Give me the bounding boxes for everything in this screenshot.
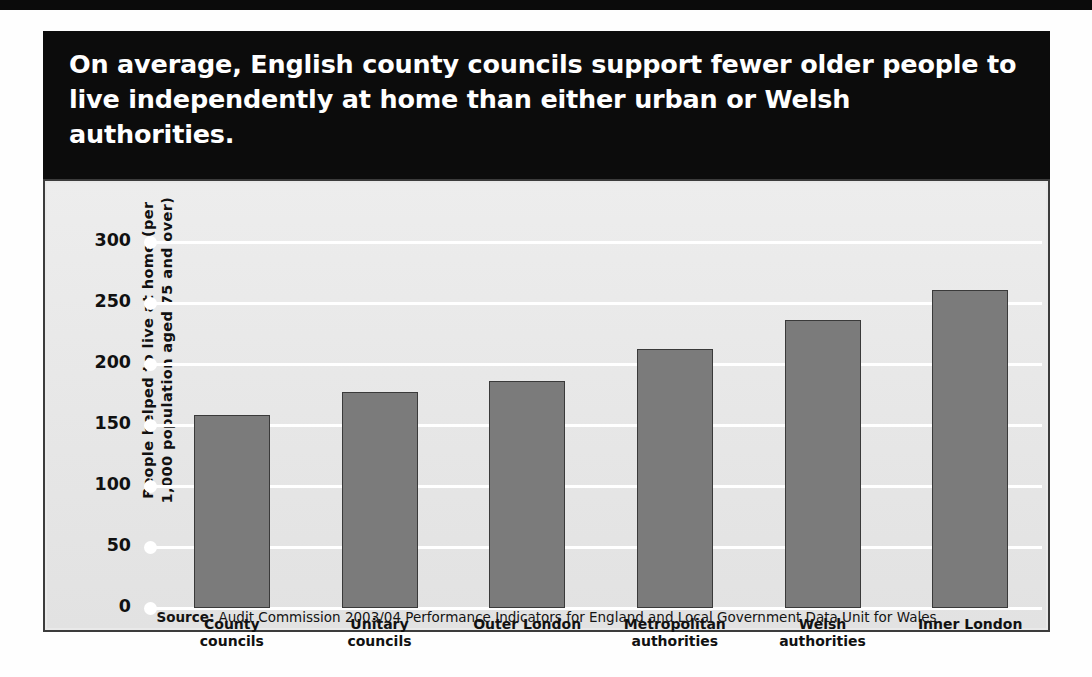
y-axis-tick-label: 200 [61, 352, 131, 372]
y-axis-tick-dot [144, 480, 157, 493]
bar [489, 381, 565, 608]
y-axis-tick-label: 100 [61, 474, 131, 494]
gridline [150, 241, 1042, 244]
y-axis-tick-label: 150 [61, 413, 131, 433]
headline-text: On average, English county councils supp… [69, 47, 1024, 152]
y-axis-title: People helped to live at home (per 1,000… [139, 185, 177, 515]
y-axis-tick-label: 250 [61, 291, 131, 311]
figure: On average, English county councils supp… [43, 31, 1050, 632]
y-axis-tick-dot [144, 541, 157, 554]
bar [932, 290, 1008, 608]
y-axis-tick-dot [144, 358, 157, 371]
chart-page: On average, English county councils supp… [0, 0, 1092, 677]
gridline [150, 424, 1042, 427]
bar [637, 349, 713, 608]
y-axis-tick-label: 50 [61, 535, 131, 555]
bar [194, 415, 270, 608]
chart-panel: People helped to live at home (per 1,000… [43, 179, 1050, 632]
bar [785, 320, 861, 608]
headline-banner: On average, English county councils supp… [43, 31, 1050, 179]
page-top-rule [0, 0, 1092, 10]
y-axis-tick-dot [144, 419, 157, 432]
y-axis-tick-dot [144, 297, 157, 310]
source-label: Source: [156, 609, 214, 625]
bar [342, 392, 418, 608]
source-text: Audit Commission 2003/04 Performance Ind… [214, 609, 936, 625]
gridline [150, 485, 1042, 488]
gridline [150, 363, 1042, 366]
source-note: Source: Audit Commission 2003/04 Perform… [45, 609, 1048, 625]
y-axis-tick-dot [144, 236, 157, 249]
gridline [150, 302, 1042, 305]
gridline [150, 546, 1042, 549]
y-axis-tick-label: 300 [61, 230, 131, 250]
